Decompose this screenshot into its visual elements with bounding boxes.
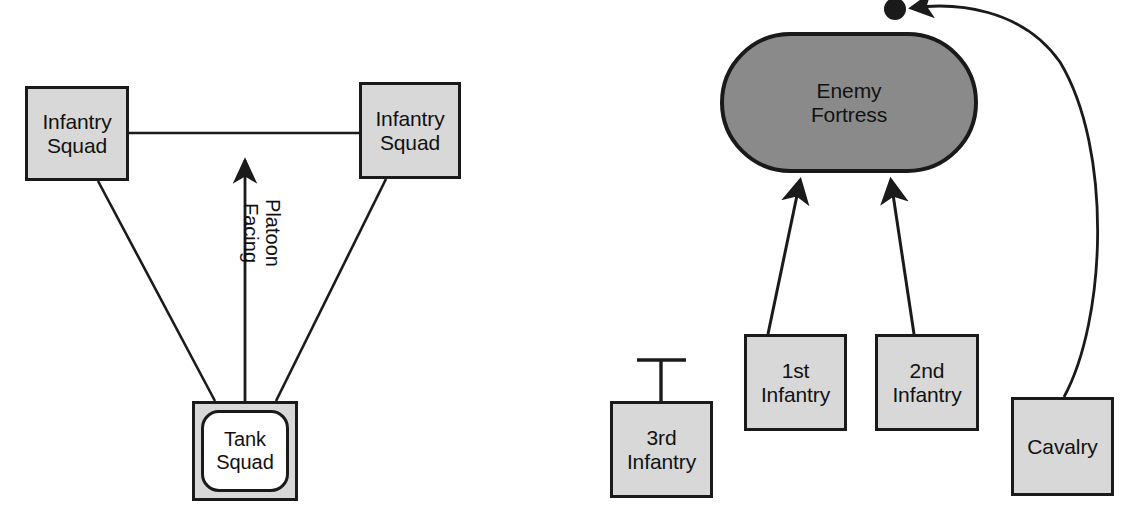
node-2nd-infantry[interactable]: 2nd Infantry (875, 334, 979, 431)
node-tank-squad[interactable]: Tank Squad (192, 401, 298, 501)
node-label: Tank Squad (216, 428, 273, 473)
node-infantry-squad-left[interactable]: Infantry Squad (25, 86, 129, 181)
node-tank-squad-inner: Tank Squad (201, 410, 289, 492)
node-label: 3rd Infantry (627, 426, 696, 473)
objective-marker-dot (884, 0, 906, 20)
node-1st-infantry[interactable]: 1st Infantry (744, 334, 847, 431)
node-label: Cavalry (1027, 435, 1097, 459)
node-label: Infantry Squad (375, 107, 444, 154)
connector-left-squad-to-tank (98, 181, 215, 401)
connector-1st-infantry-to-fortress (768, 181, 800, 334)
diagram-canvas: Infantry Squad Infantry Squad Tank Squad… (0, 0, 1128, 518)
node-label: Enemy Fortress (811, 79, 887, 126)
node-label: Infantry Squad (42, 110, 111, 157)
node-3rd-infantry[interactable]: 3rd Infantry (610, 401, 713, 498)
node-infantry-squad-right[interactable]: Infantry Squad (359, 82, 461, 179)
connector-right-squad-to-tank (276, 179, 386, 401)
connector-2nd-infantry-to-fortress (891, 181, 914, 334)
node-label: 1st Infantry (761, 359, 830, 406)
node-enemy-fortress[interactable]: Enemy Fortress (720, 32, 978, 173)
annotation-platoon-facing: Platoon Facing (244, 175, 280, 291)
node-label: 2nd Infantry (892, 359, 961, 406)
node-cavalry[interactable]: Cavalry (1011, 397, 1114, 496)
